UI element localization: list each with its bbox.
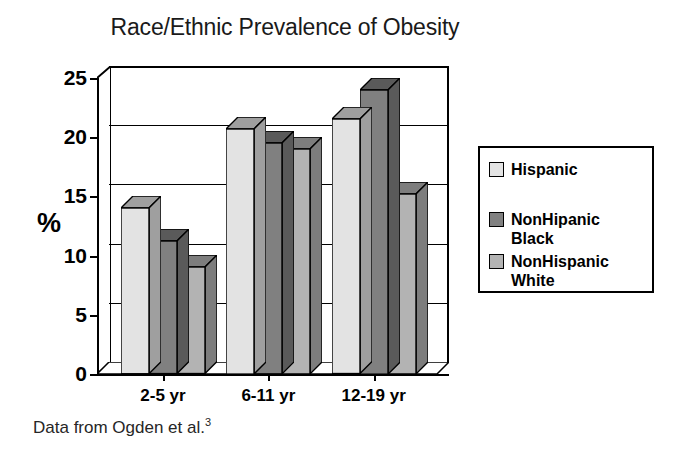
y-tick-mark [90,374,97,376]
y-tick-label: 25 [64,66,87,90]
legend: HispanicNonHipanic BlackNonHispanic Whit… [478,146,654,293]
y-tick-mark [90,196,97,198]
x-tick-label: 12-19 yr [342,386,406,406]
y-tick-label: 0 [75,362,87,386]
gridline [109,66,449,67]
footnote-source: Data from Ogden et al.3 [33,416,211,438]
y-tick-mark [90,78,97,80]
legend-label: NonHipanic Black [511,210,600,248]
y-axis-label: % [37,208,61,239]
bar-hispanic-6-11-yr [226,117,266,374]
x-tick-label: 6-11 yr [241,386,295,406]
legend-swatch-icon [489,212,504,227]
x-tick-mark [268,374,270,381]
x-axis-line [97,374,449,376]
y-tick-label: 20 [64,125,87,149]
legend-item[interactable]: NonHispanic White [489,252,609,290]
x-tick-label: 2-5 yr [140,386,185,406]
page-title: Race/Ethnic Prevalence of Obesity [0,14,570,41]
plot-side-wall [97,66,111,374]
x-tick-mark [163,374,165,381]
y-tick-mark [90,256,97,258]
x-tick-mark [374,374,376,381]
y-tick-mark [90,137,97,139]
legend-swatch-icon [489,254,504,269]
bar-hispanic-2-5-yr [121,196,161,374]
legend-label: Hispanic [511,160,578,179]
y-axis-line [97,78,99,374]
legend-item[interactable]: NonHipanic Black [489,210,600,248]
plot-area: 0510152025 2-5 yr6-11 yr12-19 yr [97,66,449,374]
legend-swatch-icon [489,162,504,177]
legend-item[interactable]: Hispanic [489,160,578,179]
y-tick-label: 10 [64,244,87,268]
y-tick-label: 15 [64,184,87,208]
bar-hispanic-12-19-yr [332,107,372,374]
y-tick-label: 5 [75,303,87,327]
footnote-reference: 3 [205,416,211,428]
legend-label: NonHispanic White [511,252,609,290]
y-tick-mark [90,315,97,317]
footnote-text: Data from Ogden et al. [33,418,205,437]
